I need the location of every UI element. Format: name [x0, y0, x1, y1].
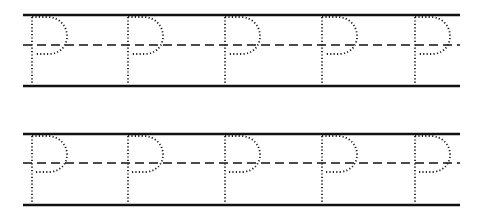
dotted-letter-p: [32, 17, 67, 85]
letter-bowl: [415, 17, 450, 54]
dotted-letter-p: [415, 17, 450, 85]
dotted-letter-p: [225, 17, 260, 85]
letter-bowl: [225, 136, 260, 172]
tracing-row: [23, 15, 460, 86]
letter-bowl: [128, 17, 163, 54]
dotted-letter-p: [128, 136, 163, 204]
worksheet-canvas: [0, 0, 482, 221]
letter-bowl: [225, 17, 260, 54]
dotted-letter-p: [322, 17, 357, 85]
dotted-letter-p: [322, 136, 357, 204]
tracing-row: [23, 134, 460, 205]
letter-bowl: [32, 136, 67, 172]
letter-bowl: [322, 136, 357, 172]
dotted-letter-p: [32, 136, 67, 204]
dotted-letter-p: [415, 136, 450, 204]
letter-bowl: [32, 17, 67, 54]
letter-bowl: [128, 136, 163, 172]
letter-bowl: [415, 136, 450, 172]
letter-bowl: [322, 17, 357, 54]
dotted-letter-p: [128, 17, 163, 85]
dotted-letter-p: [225, 136, 260, 204]
